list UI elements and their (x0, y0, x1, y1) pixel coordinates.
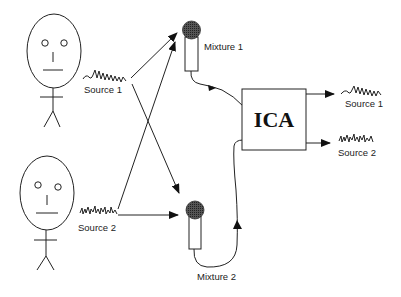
mic-2-body (189, 216, 201, 249)
arrow-source2-to-mic1 (118, 42, 175, 209)
source-2-label: Source 2 (78, 222, 116, 233)
speaker-1-left-leg (44, 111, 53, 127)
source-1-label: Source 1 (84, 84, 122, 95)
output-2-waveform-icon (339, 134, 373, 142)
speaker-2-right-leg (46, 256, 54, 270)
mic-1-cable-arrow-icon (208, 85, 216, 91)
output-1-waveform-icon (341, 86, 381, 96)
mic-1-head-icon (183, 21, 201, 39)
mic-2-label: Mixture 2 (197, 271, 236, 282)
speaker-2-right-eye (55, 184, 61, 190)
speaker-2-left-leg (37, 256, 46, 270)
speaker-1-head (27, 14, 81, 88)
speaker-2-head (20, 156, 74, 230)
mic-1-body (185, 37, 198, 71)
source-2-waveform-icon (80, 206, 117, 214)
ica-diagram: Source 1 Source 2 Mixture 1 Mixture 2 IC… (0, 0, 401, 297)
speaker-1-figure (27, 14, 81, 127)
ica-label: ICA (254, 107, 294, 132)
speaker-1-right-eye (61, 40, 67, 46)
mic-1-label: Mixture 1 (204, 41, 243, 52)
mic-2-cable-arrow-icon (233, 220, 242, 229)
output-1-label: Source 1 (345, 98, 383, 109)
speaker-1-right-leg (53, 111, 60, 127)
source-1-waveform-icon (83, 70, 126, 82)
mic-1-cable (191, 71, 243, 106)
speaker-2-left-eye (35, 182, 41, 188)
mic-2-head-icon (186, 201, 204, 219)
output-2-label: Source 2 (338, 147, 376, 158)
speaker-1-left-eye (42, 40, 48, 46)
speaker-2-figure (20, 156, 74, 270)
microphone-2 (186, 201, 204, 249)
microphone-1 (183, 21, 201, 71)
